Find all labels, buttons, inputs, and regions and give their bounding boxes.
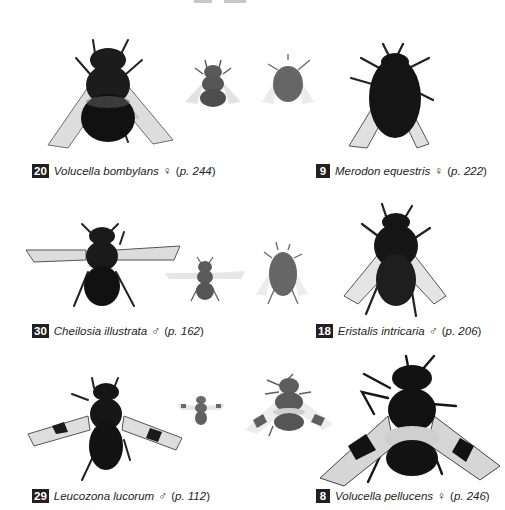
fly-image-small-mimic — [254, 240, 310, 306]
species-name: Eristalis intricaria — [338, 324, 425, 338]
species-name: Cheilosia illustrata — [54, 324, 147, 338]
page-reference: (p. 244) — [176, 164, 216, 178]
page-reference: (p. 206) — [442, 324, 482, 338]
species-name: Leucozona lucorum — [54, 489, 154, 503]
male-symbol-icon: ♂ — [151, 324, 160, 338]
fly-image-merodon-equestris — [343, 38, 443, 148]
caption-merodon-equestris: 9 Merodon equestris ♀ (p. 222) — [316, 164, 487, 178]
fly-image-volucella-bombylans — [38, 30, 178, 155]
species-name: Volucella pellucens — [335, 489, 433, 503]
fly-image-small-mimic — [175, 392, 227, 426]
fly-image-leucozona-lucorum — [26, 376, 186, 480]
species-number-badge: 8 — [316, 489, 330, 503]
fly-image-small-mimic — [183, 58, 243, 110]
top-edge-mark — [194, 0, 212, 3]
page-reference: (p. 222) — [447, 164, 487, 178]
top-edge-mark — [224, 0, 246, 3]
species-number-badge: 29 — [32, 489, 49, 503]
page-reference: (p. 112) — [171, 489, 210, 503]
male-symbol-icon: ♂ — [158, 489, 167, 503]
species-number-badge: 18 — [316, 324, 333, 338]
species-number-badge: 20 — [32, 164, 49, 178]
caption-volucella-pellucens: 8 Volucella pellucens ♀ (p. 246) — [316, 489, 490, 503]
fly-image-cheilosia-illustrata — [24, 220, 184, 310]
fly-image-eristalis-intricaria — [340, 200, 450, 318]
female-symbol-icon: ♀ — [434, 164, 443, 178]
fly-image-small-mimic — [258, 52, 318, 110]
species-name: Volucella bombylans — [54, 164, 159, 178]
page-reference: (p. 162) — [164, 324, 204, 338]
caption-eristalis-intricaria: 18 Eristalis intricaria ♂ (p. 206) — [316, 324, 481, 338]
fly-image-small-mimic — [163, 255, 247, 303]
caption-volucella-bombylans: 20 Volucella bombylans ♀ (p. 244) — [32, 164, 216, 178]
fly-image-volucella-pellucens — [310, 352, 505, 488]
caption-cheilosia-illustrata: 30 Cheilosia illustrata ♂ (p. 162) — [32, 324, 204, 338]
female-symbol-icon: ♀ — [437, 489, 446, 503]
species-number-badge: 30 — [32, 324, 49, 338]
caption-leucozona-lucorum: 29 Leucozona lucorum ♂ (p. 112) — [32, 489, 210, 503]
species-name: Merodon equestris — [335, 164, 430, 178]
page-reference: (p. 246) — [450, 489, 490, 503]
species-number-badge: 9 — [316, 164, 330, 178]
male-symbol-icon: ♂ — [429, 324, 438, 338]
female-symbol-icon: ♀ — [163, 164, 172, 178]
